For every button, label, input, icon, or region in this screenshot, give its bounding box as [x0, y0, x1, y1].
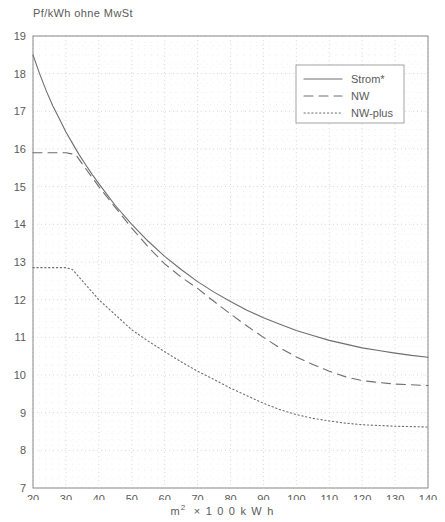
x-tick-label: 130	[386, 493, 404, 500]
x-tick-label: 90	[257, 493, 269, 500]
x-tick-label: 60	[159, 493, 171, 500]
y-tick-label: 17	[14, 105, 26, 117]
x-tick-label: 50	[126, 493, 138, 500]
y-tick-label: 15	[14, 181, 26, 193]
x-tick-label: 70	[191, 493, 203, 500]
y-tick-label: 10	[14, 369, 26, 381]
y-tick-label: 18	[14, 68, 26, 80]
legend-label: Strom*	[351, 73, 385, 85]
y-tick-label: 14	[14, 218, 26, 230]
y-tick-label: 9	[20, 407, 26, 419]
x-tick-label: 100	[287, 493, 305, 500]
legend-label: NW	[351, 90, 370, 102]
x-axis-label: m2 × 1 0 0 k W h	[0, 503, 445, 517]
x-tick-label: 20	[27, 493, 39, 500]
x-axis-tick-labels: 2030405060708090100110120130140	[27, 493, 437, 500]
chart-legend: Strom*NWNW-plus	[296, 65, 404, 123]
y-tick-label: 12	[14, 294, 26, 306]
x-tick-label: 80	[224, 493, 236, 500]
y-tick-label: 16	[14, 143, 26, 155]
y-tick-label: 7	[20, 482, 26, 494]
x-tick-label: 30	[60, 493, 72, 500]
legend-label: NW-plus	[351, 107, 393, 119]
y-tick-label: 19	[14, 30, 26, 42]
x-tick-label: 40	[93, 493, 105, 500]
x-axis-label-rest: × 1 0 0 k W h	[194, 505, 275, 517]
x-tick-label: 120	[353, 493, 371, 500]
series-line-nw-plus	[33, 268, 428, 427]
x-tick-label: 140	[419, 493, 437, 500]
line-chart-plot: 78910111213141516171819 2030405060708090…	[0, 0, 445, 500]
chart-container: Pf/kWh ohne MwSt 78910111213141516171819…	[0, 0, 445, 522]
x-axis-label-unit: m	[170, 505, 180, 517]
chart-title: Pf/kWh ohne MwSt	[33, 7, 133, 19]
x-axis-label-superscript: 2	[181, 503, 185, 512]
y-tick-label: 8	[20, 444, 26, 456]
y-axis-tick-labels: 78910111213141516171819	[14, 30, 26, 494]
y-tick-label: 11	[15, 331, 26, 343]
series-line-nw	[33, 153, 428, 386]
y-tick-label: 13	[14, 256, 26, 268]
x-tick-label: 110	[320, 493, 338, 500]
